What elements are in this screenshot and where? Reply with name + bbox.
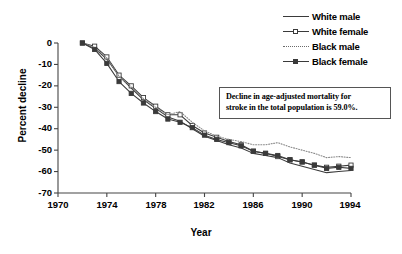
series-marker <box>251 149 255 153</box>
series-marker <box>349 166 353 170</box>
series-marker <box>93 47 97 51</box>
annotation-line-1: Decline in age-adjusted mortality for <box>226 92 385 103</box>
series-marker <box>129 91 133 95</box>
x-tick-label-1986: 1986 <box>233 200 273 210</box>
legend-label-black-female: Black female <box>312 56 368 67</box>
annotation-line-2: stroke in the total population is 59.0%. <box>226 103 385 114</box>
annotation-textbox: Decline in age-adjusted mortality for st… <box>219 87 391 119</box>
y-tick-label-0: 0 <box>22 38 52 48</box>
legend-item-black-male: Black male <box>283 39 399 54</box>
legend-item-black-female: Black female <box>283 54 399 69</box>
x-tick-label-1990: 1990 <box>282 200 322 210</box>
chart-legend: White male White female Black male Black… <box>283 9 399 69</box>
series-marker <box>178 120 182 124</box>
series-marker <box>300 160 304 164</box>
y-tick-label-60: -60 <box>22 166 52 176</box>
x-tick-label-1978: 1978 <box>136 200 176 210</box>
chart-root: 0 -10 -20 -30 -40 -50 -60 -70 1970 1974 … <box>0 0 402 254</box>
x-tick-label-1970: 1970 <box>38 200 78 210</box>
legend-key-dotted-line-icon <box>283 41 309 52</box>
legend-item-white-female: White female <box>283 24 399 39</box>
series-marker <box>227 141 231 145</box>
x-tick-label-1982: 1982 <box>184 200 224 210</box>
series-marker <box>190 126 194 130</box>
series-marker <box>141 101 145 105</box>
series-marker <box>263 151 267 155</box>
series-marker <box>154 109 158 113</box>
series-marker <box>166 117 170 121</box>
legend-label-white-female: White female <box>312 26 368 37</box>
series-marker <box>276 153 280 157</box>
x-tick-label-1994: 1994 <box>330 200 370 210</box>
series-marker <box>337 165 341 169</box>
y-tick-label-70: -70 <box>22 188 52 198</box>
legend-key-open-square-icon <box>283 26 309 37</box>
legend-item-white-male: White male <box>283 9 399 24</box>
series-marker <box>80 41 84 45</box>
legend-key-filled-square-icon <box>283 56 309 67</box>
legend-label-white-male: White male <box>312 11 360 22</box>
x-axis-title: Year <box>161 227 241 238</box>
series-marker <box>215 137 219 141</box>
series-marker <box>105 61 109 65</box>
x-tick-label-1974: 1974 <box>87 200 127 210</box>
series-marker <box>239 144 243 148</box>
series-marker <box>202 133 206 137</box>
legend-key-solid-line-icon <box>283 11 309 22</box>
series-marker <box>288 158 292 162</box>
series-marker <box>312 163 316 167</box>
series-marker <box>324 166 328 170</box>
y-axis-title: Percent decline <box>17 61 28 151</box>
series-marker <box>117 79 121 83</box>
legend-label-black-male: Black male <box>312 41 360 52</box>
